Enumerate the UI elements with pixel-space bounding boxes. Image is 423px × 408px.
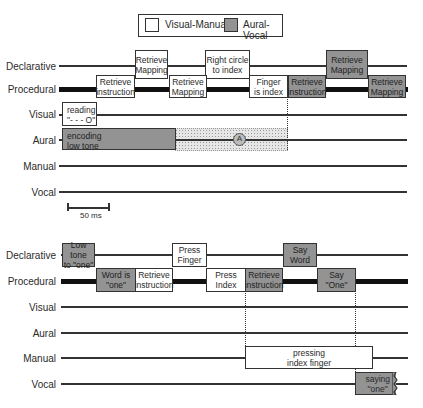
scale-bar-tick-right (108, 203, 110, 211)
scale-bar-tick-left (67, 203, 69, 211)
legend-label-aural-vocal: Aural-Vocal (243, 19, 282, 41)
visual-box-reading: reading "- - - O" (62, 102, 97, 126)
manual-box-pressing-index-finger: pressing index finger (245, 346, 373, 369)
vocal-line (59, 191, 407, 193)
row-label-vocal-2: Vocal (32, 379, 56, 390)
aural-vocal-swatch (224, 18, 238, 32)
proc-box-retrieve-instruction-aural-2: Retrieve instruction (245, 268, 283, 292)
vocal-box-saying-one: saying "one" (355, 372, 396, 395)
row-label-aural-2: Aural (33, 328, 56, 339)
proc-box-finger-is-index: Finger is index (249, 75, 288, 98)
torn-edge-icon (392, 372, 400, 395)
row-label-procedural-2: Procedural (8, 276, 56, 287)
aural-box-encoding: encoding low tone (62, 128, 176, 150)
row-label-manual-2: Manual (23, 353, 56, 364)
legend-label-visual-manual: Visual-Manual (165, 19, 228, 30)
proc-box-press-index: Press Index (206, 268, 246, 292)
sync-dotted-line (287, 97, 288, 150)
row-label-declarative-2: Declarative (6, 250, 56, 261)
decl-box-press-finger: Press Finger (172, 243, 207, 267)
decl-box-say-word: Say Word (283, 243, 317, 267)
sync-dotted-line-manual (245, 290, 246, 348)
decl-box-low-tone-to-one: Low tone to "one" (62, 243, 95, 267)
legend: Visual-Manual Aural-Vocal (138, 14, 283, 37)
proc-box-say-one: Say "One" (317, 268, 356, 292)
row-label-aural: Aural (33, 135, 56, 146)
manual-line (59, 165, 407, 167)
decl-box-right-circle: Right circle to index (205, 50, 250, 79)
decl-box-retrieve-mapping: Retrieve Mapping (135, 50, 168, 79)
row-label-vocal: Vocal (32, 187, 56, 198)
scale-bar-label: 50 ms (80, 211, 102, 220)
row-label-procedural: Procedural (8, 84, 56, 95)
row-label-visual: Visual (29, 109, 56, 120)
row-label-visual-2: Visual (29, 302, 56, 313)
proc-box-retrieve-instruction-2: Retrieve instruction (135, 268, 173, 292)
declarative-line-2 (61, 254, 408, 256)
interference-marker: A (233, 133, 246, 146)
row-label-declarative: Declarative (6, 61, 56, 72)
decl-box-retrieve-mapping-aural: Retrieve Mapping (326, 50, 368, 79)
proc-box-retrieve-instruction-aural: Retrieve instruction (288, 75, 326, 98)
proc-box-retrieve-mapping: Retrieve Mapping (169, 75, 207, 98)
proc-box-retrieve-mapping-aural: Retrieve Mapping (368, 75, 406, 98)
visual-manual-swatch (145, 18, 159, 32)
row-label-manual: Manual (23, 161, 56, 172)
proc-box-word-is-one: Word is "one" (96, 268, 136, 292)
visual-line (59, 114, 407, 116)
proc-box-retrieve-instruction: Retrieve instruction (96, 75, 135, 98)
scale-bar (67, 207, 109, 209)
